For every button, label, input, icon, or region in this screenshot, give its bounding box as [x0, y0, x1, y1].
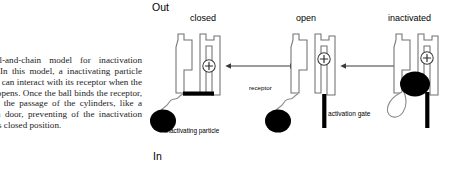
diagram-canvas	[150, 0, 449, 169]
state-label-inactivated: inactivated	[388, 13, 431, 23]
channel-open-left-subunit	[291, 34, 307, 93]
annotation-activation-gate: activation gate	[328, 110, 371, 117]
annotation-inactivating-particle: inactivating particle	[165, 127, 219, 134]
channel-open	[265, 34, 335, 133]
figure-root: The ball-and-chain model for inactivatio…	[0, 0, 449, 169]
voltage-sensor-inactivated	[421, 52, 433, 64]
activation-gate-inactivated-bar	[425, 92, 429, 128]
label-out: Out	[152, 1, 169, 13]
annotation-receptor: receptor	[249, 84, 272, 91]
label-in: In	[153, 150, 162, 162]
state-label-closed: closed	[190, 13, 216, 23]
chain-inactivated	[387, 90, 406, 117]
activation-gate-closed-bar	[183, 92, 214, 96]
chain-open	[275, 94, 298, 112]
figure-caption-text: The ball-and-chain model for inactivatio…	[0, 55, 142, 131]
channel-closed	[150, 34, 220, 133]
activation-gate-open-bar	[322, 94, 326, 128]
chain-closed	[160, 94, 183, 112]
state-label-open: open	[296, 13, 316, 23]
inactivating-particle-inactivated	[400, 72, 430, 97]
ion-channel-diagram: Out In closed open inactivated inactivat…	[150, 0, 449, 169]
channel-inactivated	[387, 34, 438, 128]
figure-caption: The ball-and-chain model for inactivatio…	[0, 55, 142, 131]
voltage-sensor-closed	[203, 60, 215, 72]
channel-closed-left-subunit	[176, 34, 192, 93]
inactivating-particle-open	[265, 110, 291, 133]
voltage-sensor-open	[318, 53, 330, 65]
